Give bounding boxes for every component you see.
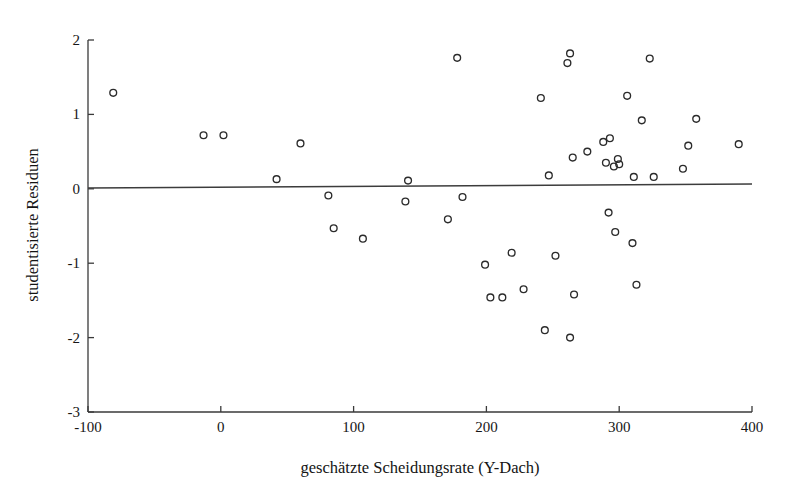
data-point [360,235,367,242]
data-point [607,135,614,142]
data-point [646,55,653,62]
x-axis-ticks [88,406,752,412]
plot-canvas: -3-2-1012 -1000100200300400 geschätzte S… [0,0,806,498]
data-point [508,249,515,256]
data-point [584,148,591,155]
y-tick-label: -2 [68,330,81,346]
data-point [330,225,337,232]
scatter-plot-figure: -3-2-1012 -1000100200300400 geschätzte S… [0,0,806,498]
data-point [402,198,409,205]
x-tick-label: 200 [475,419,498,435]
x-tick-label: 0 [217,419,225,435]
data-point [520,286,527,293]
data-point [499,294,506,301]
y-axis-title: studentisierte Residuen [23,148,42,302]
x-axis-title: geschätzte Scheidungsrate (Y-Dach) [300,458,539,477]
data-point [567,334,574,341]
data-point [612,229,619,236]
x-tick-label: 400 [741,419,764,435]
x-tick-label: -100 [74,419,102,435]
data-point [605,209,612,216]
x-tick-label: 100 [342,419,365,435]
x-axis-tick-labels: -1000100200300400 [74,419,763,435]
data-point [603,159,610,166]
y-tick-label: -3 [68,404,81,420]
data-point [537,95,544,102]
y-tick-label: 2 [73,32,81,48]
data-point [564,60,571,67]
data-point [638,117,645,124]
data-point [454,54,461,61]
data-point [569,154,576,161]
y-axis-ticks [88,40,94,412]
data-point [200,132,207,139]
x-tick-label: 300 [608,419,631,435]
data-point [487,294,494,301]
data-point [273,176,280,183]
data-point [571,291,578,298]
y-axis-tick-labels: -3-2-1012 [68,32,81,420]
data-point [541,327,548,334]
data-point [650,174,657,181]
data-point [567,50,574,57]
data-point [685,142,692,149]
data-point [297,140,304,147]
data-point [325,192,332,199]
data-point [624,92,631,99]
scatter-points-group [110,50,742,341]
y-tick-label: 1 [73,106,81,122]
data-point [220,132,227,139]
y-tick-label: 0 [73,181,81,197]
data-point [444,216,451,223]
data-point [482,261,489,268]
data-point [545,172,552,179]
data-point [110,89,117,96]
data-point [693,115,700,122]
data-point [735,141,742,148]
zero-residual-line [88,184,752,188]
data-point [630,174,637,181]
data-point [680,165,687,172]
data-point [405,177,412,184]
data-point [459,194,466,201]
data-point [552,252,559,259]
data-point [600,139,607,146]
data-point [633,281,640,288]
data-point [629,240,636,247]
y-tick-label: -1 [68,255,81,271]
